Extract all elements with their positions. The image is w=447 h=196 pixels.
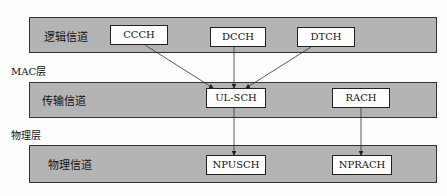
channel-mapping-diagram: 逻辑信道 传输信道 物理信道 MAC层 物理层 CCCH DCCH DTCH U… bbox=[0, 0, 447, 196]
mapping-arrows bbox=[0, 0, 447, 196]
